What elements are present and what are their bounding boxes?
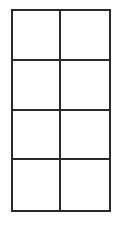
grid-cell-r4-c1 [13, 160, 61, 210]
grid-cell-r4-c2 [61, 160, 109, 210]
grid-cell-r2-c1 [13, 61, 61, 111]
grid-cell-r2-c2 [61, 61, 109, 111]
grid-cell-r1-c1 [13, 11, 61, 61]
grid-diagram [11, 9, 111, 212]
grid-cell-r3-c2 [61, 111, 109, 161]
grid-cell-r3-c1 [13, 111, 61, 161]
grid-cell-r1-c2 [61, 11, 109, 61]
